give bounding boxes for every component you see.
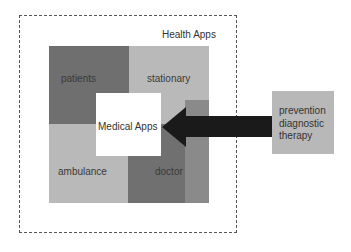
health-apps-title: Health Apps <box>162 29 216 40</box>
doctor-label: doctor <box>155 166 183 177</box>
therapy-label: therapy <box>279 130 326 143</box>
patients-label: patients <box>61 73 96 84</box>
diagnostic-label: diagnostic <box>279 118 326 131</box>
medical-apps-label: Medical Apps <box>98 121 157 132</box>
external-labels: prevention diagnostic therapy <box>279 105 326 143</box>
left-arrow-icon <box>160 105 274 149</box>
stationary-label: stationary <box>147 73 190 84</box>
prevention-label: prevention <box>279 105 326 118</box>
ambulance-label: ambulance <box>58 166 107 177</box>
